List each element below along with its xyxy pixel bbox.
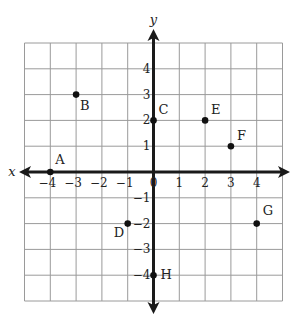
point-h: [150, 272, 157, 279]
x-tick-label: 4: [253, 176, 261, 190]
x-tick-label: −3: [64, 176, 82, 190]
point-label-b: B: [80, 98, 90, 113]
point-d: [124, 220, 131, 227]
x-tick-label: 3: [227, 176, 235, 190]
y-tick-label: −2: [133, 217, 151, 231]
y-axis-label: y: [149, 12, 158, 27]
point-e: [202, 117, 209, 124]
point-label-a: A: [54, 152, 65, 167]
x-tick-label: −2: [90, 176, 108, 190]
x-tick-label: 2: [201, 176, 209, 190]
point-label-f: F: [237, 128, 246, 143]
y-tick-label: −3: [133, 242, 151, 256]
y-tick-label: 1: [143, 139, 151, 153]
y-tick-label: 3: [143, 88, 151, 102]
point-label-d: D: [114, 225, 124, 240]
point-f: [228, 143, 235, 150]
x-tick-label: −1: [116, 176, 134, 190]
y-tick-label: 2: [143, 113, 151, 127]
x-tick-label: 0: [150, 176, 158, 190]
y-tick-label: −4: [133, 268, 151, 282]
y-tick-label: −1: [133, 191, 151, 205]
point-a: [47, 169, 54, 176]
point-label-c: C: [159, 102, 169, 117]
point-label-h: H: [161, 267, 172, 282]
point-c: [150, 117, 157, 124]
point-label-g: G: [263, 203, 273, 218]
x-tick-label: 1: [175, 176, 183, 190]
point-g: [253, 220, 260, 227]
coordinate-plane: xy −4−3−2−1012344321−1−2−3−4 ABCDEFGH: [0, 0, 294, 318]
x-axis-label: x: [8, 164, 16, 179]
point-b: [73, 91, 80, 98]
y-tick-label: 4: [143, 62, 151, 76]
point-label-e: E: [211, 102, 221, 117]
x-tick-label: −4: [38, 176, 56, 190]
